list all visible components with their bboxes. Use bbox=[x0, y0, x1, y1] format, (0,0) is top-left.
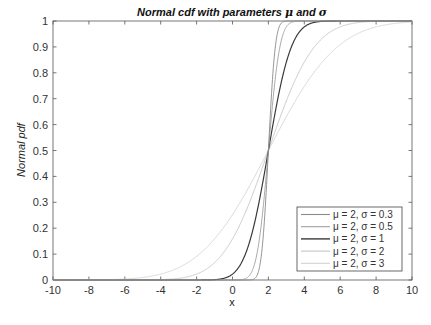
y-tick-label: 0.5 bbox=[33, 145, 48, 157]
x-tick-label: 2 bbox=[265, 284, 271, 296]
normal-cdf-chart: Normal cdf with parameters μ and σ -10-8… bbox=[0, 0, 431, 325]
x-tick-label: 0 bbox=[229, 284, 235, 296]
y-axis-label: Normal pdf bbox=[15, 122, 27, 177]
y-tick-label: 0.1 bbox=[33, 248, 48, 260]
x-axis-label: x bbox=[229, 296, 235, 308]
legend-entry-label: μ = 2, σ = 3 bbox=[333, 258, 385, 269]
x-tick-label: -4 bbox=[156, 284, 166, 296]
legend-entry-label: μ = 2, σ = 0.5 bbox=[333, 221, 393, 232]
y-tick-label: 0.9 bbox=[33, 41, 48, 53]
x-tick-label: 8 bbox=[373, 284, 379, 296]
y-tick-label: 0.8 bbox=[33, 67, 48, 79]
y-tick-label: 1 bbox=[42, 15, 48, 27]
legend-entry-label: μ = 2, σ = 1 bbox=[333, 233, 385, 244]
y-tick-label: 0.7 bbox=[33, 93, 48, 105]
y-tick-label: 0.2 bbox=[33, 222, 48, 234]
y-tick-label: 0 bbox=[42, 274, 48, 286]
legend: μ = 2, σ = 0.3μ = 2, σ = 0.5μ = 2, σ = 1… bbox=[297, 207, 402, 271]
chart-title: Normal cdf with parameters μ and σ bbox=[137, 6, 328, 19]
y-tick-label: 0.3 bbox=[33, 196, 48, 208]
x-tick-label: 10 bbox=[406, 284, 418, 296]
x-tick-label: -2 bbox=[192, 284, 202, 296]
legend-entry-label: μ = 2, σ = 2 bbox=[333, 246, 385, 257]
x-tick-label: -6 bbox=[120, 284, 130, 296]
legend-entry-label: μ = 2, σ = 0.3 bbox=[333, 209, 393, 220]
x-tick-label: -8 bbox=[84, 284, 94, 296]
y-tick-label: 0.4 bbox=[33, 170, 48, 182]
x-tick-label: 4 bbox=[301, 284, 307, 296]
x-tick-label: 6 bbox=[337, 284, 343, 296]
y-tick-label: 0.6 bbox=[33, 119, 48, 131]
